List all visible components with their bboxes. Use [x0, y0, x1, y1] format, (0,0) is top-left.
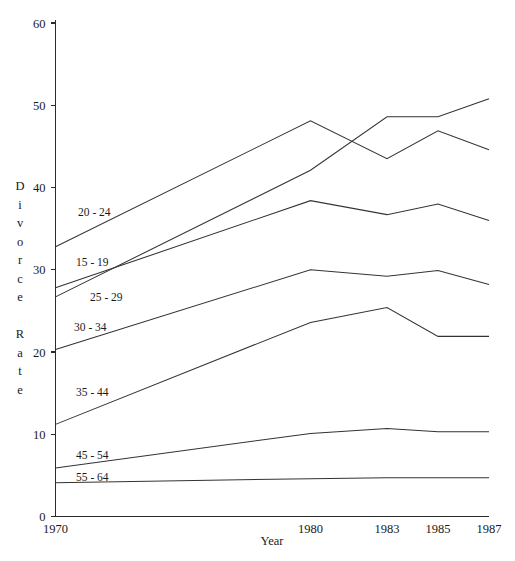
x-tick-label: 1970: [43, 522, 68, 536]
y-axis-title-char: e: [17, 383, 23, 397]
y-tick-label: 40: [33, 181, 46, 195]
y-tick-label: 20: [33, 346, 46, 360]
y-axis-title-char: D: [15, 179, 24, 193]
series-line-15-19: [56, 99, 490, 297]
series-label-25-29: 25 - 29: [90, 291, 123, 303]
y-axis-title-char: o: [17, 235, 23, 249]
y-axis-ticks: 0102030405060: [33, 17, 56, 525]
x-axis: 19701980198319851987: [43, 517, 502, 536]
y-axis-title-char: v: [17, 216, 24, 230]
series-line-25-29: [56, 201, 490, 288]
series-label-30-34: 30 - 34: [74, 321, 107, 333]
y-axis-title-char: i: [18, 198, 22, 212]
series-inline-labels-group: 20 - 2415 - 1925 - 2930 - 3435 - 4445 - …: [74, 206, 123, 483]
y-tick-label: 10: [33, 428, 46, 442]
x-tick-label: 1983: [375, 522, 400, 536]
series-label-55-64: 55 - 64: [76, 471, 109, 483]
y-axis: 0102030405060: [33, 17, 56, 525]
series-line-55-64: [56, 478, 490, 483]
series-line-45-54: [56, 428, 490, 467]
series-label-35-44: 35 - 44: [76, 386, 109, 398]
series-label-45-54: 45 - 54: [76, 449, 109, 461]
y-axis-title-char: c: [17, 272, 23, 286]
series-line-20-24: [56, 121, 490, 247]
x-tick-label: 1987: [477, 522, 502, 536]
series-label-20-24: 20 - 24: [78, 206, 111, 218]
chart-canvas: 0102030405060 19701980198319851987 20 - …: [0, 0, 515, 561]
y-axis-title-char: R: [16, 327, 25, 341]
series-label-15-19: 15 - 19: [76, 256, 109, 268]
x-axis-title: Year: [260, 534, 284, 548]
x-tick-label: 1985: [426, 522, 451, 536]
series-line-35-44: [56, 308, 490, 425]
y-tick-label: 50: [33, 99, 46, 113]
y-axis-title-char: e: [17, 290, 23, 304]
y-axis-title-char: a: [17, 346, 23, 360]
y-axis-title: DivorceRate: [15, 179, 24, 397]
x-tick-label: 1980: [298, 522, 323, 536]
y-axis-title-char: r: [18, 253, 23, 267]
y-tick-label: 60: [33, 17, 46, 31]
y-tick-label: 30: [33, 263, 46, 277]
y-axis-title-char: t: [18, 364, 22, 378]
divorce-rate-line-chart: 0102030405060 19701980198319851987 20 - …: [0, 0, 515, 561]
